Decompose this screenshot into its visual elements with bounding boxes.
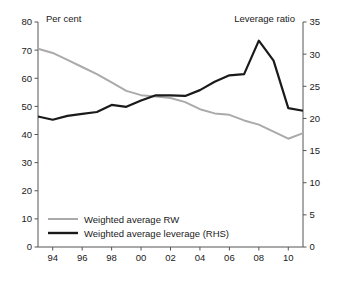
legend-label-0: Weighted average RW <box>84 214 179 225</box>
y-axis-tick-label: 50 <box>21 101 32 112</box>
y-axis-tick-label: 30 <box>21 157 32 168</box>
x-axis-tick-label: 96 <box>77 252 88 263</box>
x-axis-tick-label: 08 <box>254 252 265 263</box>
y2-axis-tick-label: 20 <box>310 113 321 124</box>
y2-axis-tick-label: 5 <box>310 209 315 220</box>
y2-axis-tick-label: 35 <box>310 16 321 27</box>
chart-container: 0102030405060708005101520253035949698000… <box>0 0 341 282</box>
y-axis-tick-label: 60 <box>21 73 32 84</box>
x-axis-tick-label: 10 <box>283 252 294 263</box>
x-axis-tick-label: 04 <box>195 252 206 263</box>
y-axis-tick-label: 0 <box>27 241 32 252</box>
y2-axis-tick-label: 25 <box>310 81 321 92</box>
x-axis-tick-label: 00 <box>136 252 147 263</box>
x-axis-tick-label: 02 <box>165 252 176 263</box>
y-axis-tick-label: 20 <box>21 185 32 196</box>
y2-axis-tick-label: 30 <box>310 49 321 60</box>
y-axis-tick-label: 40 <box>21 129 32 140</box>
line-chart: 0102030405060708005101520253035949698000… <box>0 0 341 282</box>
y2-axis-tick-label: 0 <box>310 241 315 252</box>
y2-axis-tick-label: 15 <box>310 145 321 156</box>
right-axis-title: Leverage ratio <box>234 13 295 24</box>
y-axis-tick-label: 70 <box>21 45 32 56</box>
left-axis-title: Per cent <box>46 13 82 24</box>
y-axis-tick-label: 10 <box>21 213 32 224</box>
y2-axis-tick-label: 10 <box>310 177 321 188</box>
x-axis-tick-label: 98 <box>106 252 117 263</box>
legend-label-1: Weighted average leverage (RHS) <box>84 228 229 239</box>
y-axis-tick-label: 80 <box>21 16 32 27</box>
x-axis-tick-label: 06 <box>224 252 235 263</box>
x-axis-tick-label: 94 <box>47 252 58 263</box>
